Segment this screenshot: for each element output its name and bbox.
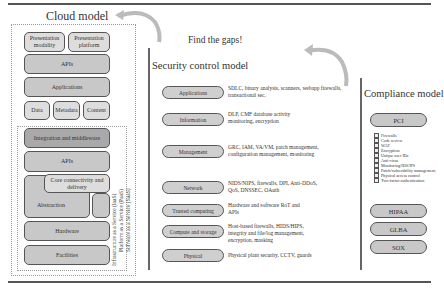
- security-desc-compute-storage: Host-based firewalls, HIDS/HIPS, integri…: [228, 223, 320, 244]
- hipaa-badge: HIPAA: [370, 204, 427, 218]
- iaas-label: Infrastructure as a Service (IaaS): [111, 170, 117, 266]
- apis-top-box: APIs: [24, 54, 110, 74]
- curved-arrow-right-icon: [302, 38, 352, 90]
- paas-label: Platform as a Service (PaaS): [118, 170, 124, 252]
- metadata-box: Metadata: [53, 101, 80, 120]
- security-row-management: Management: [162, 145, 224, 158]
- security-desc-applications: SDLC, binary analysis, scanners, webapp …: [228, 85, 348, 99]
- security-desc-information: DLP, CMF database activity monitoring, e…: [228, 111, 308, 125]
- cloud-model-title: Cloud model: [46, 9, 108, 24]
- hardware-box: Hardware: [24, 221, 110, 241]
- abstraction-label: Abstraction: [37, 202, 65, 209]
- top-rule: [8, 3, 431, 5]
- core-connectivity-box: Core connectivity and delivery: [44, 174, 110, 193]
- checklist-item: Two-factor authentication: [374, 178, 435, 183]
- security-row-trusted-computing: Trusted computing: [162, 204, 224, 217]
- security-desc-physical: Physical plant security, CCTV, guards: [228, 252, 338, 259]
- facilities-box: Facilities: [24, 245, 110, 265]
- content-box: Content: [83, 101, 110, 120]
- compliance-model-title: Compliance model: [364, 88, 444, 99]
- presentation-modality-box: Presentation modality: [24, 32, 65, 52]
- security-row-compute-storage: Compute and storage: [162, 225, 224, 238]
- saas-label: Software as a Service (SaaS): [125, 170, 131, 252]
- security-desc-management: GRC, IAM, VA/VM, patch management, confi…: [228, 144, 348, 158]
- applications-box: Applications: [24, 77, 110, 97]
- security-row-applications: Applications: [162, 86, 224, 99]
- curved-arrow-left-icon: [115, 6, 165, 46]
- integration-middleware-box: Integration and middleware: [24, 128, 110, 148]
- data-box: Data: [24, 101, 50, 120]
- bottom-rule: [8, 281, 431, 283]
- security-control-title: Security control model: [152, 60, 248, 71]
- security-row-network: Network: [162, 181, 224, 194]
- sox-badge: SOX: [370, 240, 427, 254]
- presentation-platform-box: Presentation platform: [68, 32, 110, 52]
- apis-mid-box: APIs: [24, 151, 110, 172]
- glba-badge: GLBA: [370, 222, 427, 236]
- pci-checklist: Firewalls Code review WAF Encryption Uni…: [374, 133, 435, 183]
- compliance-divider: [360, 78, 362, 270]
- pci-badge: PCI: [370, 113, 427, 127]
- abstraction-right-box: [92, 193, 110, 218]
- find-the-gaps-caption: Find the gaps!: [188, 35, 242, 45]
- security-desc-trusted-computing: Hardware and software RoT and APIs: [228, 202, 308, 216]
- security-divider: [148, 48, 150, 270]
- security-desc-network: NIDS/NIPS, firewalls, DPI, Anti-DDoS, Qo…: [228, 180, 320, 194]
- security-row-physical: Physical: [162, 249, 224, 262]
- security-row-information: Information: [162, 113, 224, 126]
- checkbox-icon: [374, 178, 379, 183]
